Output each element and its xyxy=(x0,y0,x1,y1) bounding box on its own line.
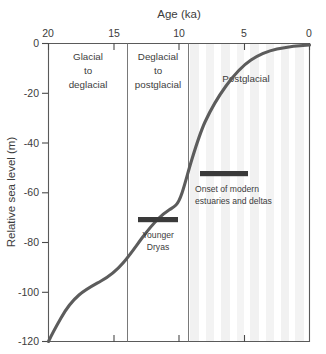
x-tick-label-20: 20 xyxy=(42,27,54,39)
younger-dryas-label-line1: Younger xyxy=(142,230,174,240)
x-tick-label-0: 0 xyxy=(306,27,312,39)
svg-text:Deglacial: Deglacial xyxy=(138,51,178,62)
y-tick-label-minus20: -20 xyxy=(24,87,39,99)
onset-estuaries-label-line1: Onset of modern xyxy=(195,184,259,194)
younger-dryas-bar xyxy=(138,217,178,222)
sea-level-chart-figure: Age (ka) Relative sea level (m) 20 15 10… xyxy=(0,0,326,354)
onset-estuaries-bar xyxy=(200,171,248,176)
x-axis-title: Age (ka) xyxy=(157,8,201,20)
svg-text:Glacial: Glacial xyxy=(73,51,103,62)
younger-dryas-label-line2: Dryas xyxy=(147,242,169,252)
x-tick-label-10: 10 xyxy=(173,27,185,39)
x-tick-label-15: 15 xyxy=(108,27,120,39)
y-tick-label-minus80: -80 xyxy=(24,236,39,248)
svg-text:to: to xyxy=(84,65,93,76)
svg-text:to: to xyxy=(154,65,163,76)
y-tick-label-0: 0 xyxy=(33,37,39,49)
y-axis-title: Relative sea level (m) xyxy=(5,137,17,248)
svg-text:postglacial: postglacial xyxy=(135,79,181,90)
onset-estuaries-label-line2: estuaries and deltas xyxy=(195,196,272,206)
x-tick-label-5: 5 xyxy=(241,27,247,39)
y-tick-label-minus40: -40 xyxy=(24,137,39,149)
svg-text:deglacial: deglacial xyxy=(69,79,108,90)
y-tick-label-minus60: -60 xyxy=(24,186,39,198)
chart-svg: Age (ka) Relative sea level (m) 20 15 10… xyxy=(0,0,326,354)
y-tick-label-minus100: -100 xyxy=(18,286,39,298)
y-tick-label-minus120: -120 xyxy=(18,335,39,347)
